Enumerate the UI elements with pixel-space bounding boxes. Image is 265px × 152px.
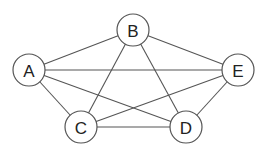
- graph-svg: ABECD: [0, 0, 265, 152]
- node-label: D: [180, 119, 192, 138]
- edge-a-b: [29, 30, 133, 70]
- node-label: B: [127, 22, 138, 41]
- node-label: A: [23, 62, 35, 81]
- nodes-group: ABECD: [13, 14, 254, 143]
- node-a: A: [13, 54, 45, 86]
- edge-b-e: [133, 30, 238, 70]
- node-label: C: [75, 119, 87, 138]
- node-label: E: [232, 62, 243, 81]
- node-e: E: [222, 54, 254, 86]
- graph-diagram: ABECD: [0, 0, 265, 152]
- node-d: D: [170, 111, 202, 143]
- node-c: C: [65, 111, 97, 143]
- node-b: B: [117, 14, 149, 46]
